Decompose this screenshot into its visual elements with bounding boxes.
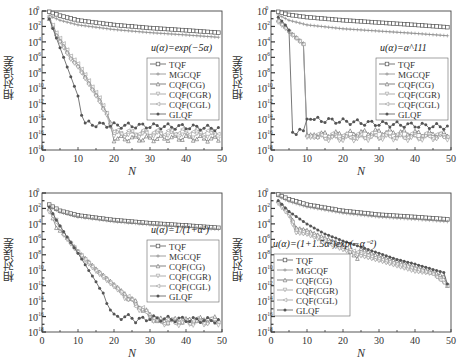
- svg-text:-12: -12: [266, 280, 274, 286]
- svg-text:10: 10: [302, 153, 312, 164]
- svg-text:-2: -2: [37, 20, 42, 26]
- svg-text:u(α)=1/(1+α²): u(α)=1/(1+α²): [151, 224, 210, 236]
- svg-text:CQF(CG): CQF(CG): [398, 80, 434, 90]
- svg-text:-6: -6: [37, 233, 42, 239]
- svg-text:-6: -6: [266, 233, 271, 239]
- svg-text:-6: -6: [266, 51, 271, 57]
- svg-text:20: 20: [109, 153, 119, 164]
- series-tqf: [47, 10, 220, 34]
- svg-text:-10: -10: [37, 82, 45, 88]
- svg-text:-8: -8: [266, 249, 271, 255]
- svg-text:10: 10: [73, 335, 83, 346]
- svg-text:CQF(CGL): CQF(CGL): [398, 100, 440, 110]
- svg-text:CQF(CGL): CQF(CGL): [169, 282, 211, 292]
- svg-text:-8: -8: [37, 249, 42, 255]
- svg-text:-12: -12: [37, 280, 45, 286]
- svg-text:GLQF: GLQF: [169, 110, 193, 120]
- svg-text:MGCQF: MGCQF: [296, 266, 328, 276]
- svg-text:30: 30: [145, 335, 155, 346]
- svg-text:CQF(CGL): CQF(CGL): [296, 296, 338, 306]
- svg-text:-12: -12: [37, 98, 45, 104]
- svg-text:40: 40: [410, 153, 420, 164]
- x-axis-label: N: [357, 164, 365, 179]
- svg-text:50: 50: [446, 335, 456, 346]
- svg-text:-2: -2: [266, 202, 271, 208]
- svg-text:CQF(CG): CQF(CG): [296, 276, 332, 286]
- svg-text:CQF(CGR): CQF(CGR): [169, 90, 211, 100]
- x-axis-label: N: [128, 346, 136, 361]
- svg-text:GLQF: GLQF: [296, 306, 320, 316]
- chart-top-left: 10010-210-410-610-810-1010-1210-1410-161…: [0, 0, 229, 182]
- svg-text:u(α)=exp(−5α): u(α)=exp(−5α): [151, 42, 213, 54]
- svg-text:-4: -4: [37, 36, 42, 42]
- svg-text:GLQF: GLQF: [169, 292, 193, 302]
- svg-text:-16: -16: [266, 129, 274, 135]
- svg-text:-10: -10: [266, 264, 274, 270]
- svg-text:-12: -12: [266, 98, 274, 104]
- svg-text:50: 50: [446, 153, 456, 164]
- svg-text:u(α)=α^111: u(α)=α^111: [380, 42, 427, 54]
- svg-text:-10: -10: [37, 264, 45, 270]
- svg-text:MGCQF: MGCQF: [169, 252, 201, 262]
- svg-text:-16: -16: [37, 129, 45, 135]
- svg-text:0: 0: [40, 335, 45, 346]
- svg-text:50: 50: [217, 153, 227, 164]
- svg-text:-16: -16: [266, 311, 274, 317]
- svg-text:-14: -14: [266, 113, 274, 119]
- svg-text:-18: -18: [266, 326, 274, 332]
- svg-text:-18: -18: [37, 144, 45, 150]
- svg-text:-14: -14: [37, 113, 45, 119]
- x-axis-label: N: [128, 164, 136, 179]
- svg-text:10: 10: [73, 153, 83, 164]
- svg-text:-6: -6: [37, 51, 42, 57]
- svg-text:-10: -10: [266, 82, 274, 88]
- chart-top-right: 10010-210-410-610-810-1010-1210-1410-161…: [229, 0, 458, 182]
- x-axis-label: N: [357, 346, 365, 361]
- svg-text:u(α)=(1+1.5α²)exp(−α⁻²): u(α)=(1+1.5α²)exp(−α⁻²): [273, 238, 377, 250]
- svg-text:0: 0: [269, 153, 274, 164]
- svg-text:-14: -14: [266, 295, 274, 301]
- svg-text:30: 30: [374, 335, 384, 346]
- series-tqf: [276, 10, 449, 29]
- svg-text:MGCQF: MGCQF: [169, 70, 201, 80]
- svg-text:-8: -8: [37, 67, 42, 73]
- svg-text:50: 50: [217, 335, 227, 346]
- svg-text:CQF(CGL): CQF(CGL): [169, 100, 211, 110]
- svg-text:10: 10: [302, 335, 312, 346]
- svg-text:CQF(CGR): CQF(CGR): [398, 90, 440, 100]
- svg-text:TQF: TQF: [169, 60, 186, 70]
- chart-bottom-right: 10010-210-410-610-810-1010-1210-1410-161…: [229, 182, 458, 364]
- svg-text:20: 20: [338, 335, 348, 346]
- panel-bottom-right: 相对误差 10010-210-410-610-810-1010-1210-141…: [229, 182, 458, 364]
- svg-text:CQF(CG): CQF(CG): [169, 262, 205, 272]
- svg-text:0: 0: [269, 335, 274, 346]
- svg-text:CQF(CGR): CQF(CGR): [169, 272, 211, 282]
- svg-text:MGCQF: MGCQF: [398, 70, 430, 80]
- svg-text:20: 20: [109, 335, 119, 346]
- panel-bottom-left: 相对误差 10010-210-410-610-810-1010-1210-141…: [0, 182, 229, 364]
- svg-text:0: 0: [266, 5, 269, 11]
- svg-text:-8: -8: [266, 67, 271, 73]
- svg-text:20: 20: [338, 153, 348, 164]
- svg-text:-4: -4: [266, 218, 271, 224]
- panel-top-right: 相对误差 10010-210-410-610-810-1010-1210-141…: [229, 0, 458, 182]
- chart-bottom-left: 10010-210-410-610-810-1010-1210-1410-161…: [0, 182, 229, 364]
- svg-text:GLQF: GLQF: [398, 110, 422, 120]
- svg-text:-16: -16: [37, 311, 45, 317]
- svg-text:TQF: TQF: [169, 242, 186, 252]
- svg-text:0: 0: [266, 187, 269, 193]
- svg-text:40: 40: [410, 335, 420, 346]
- svg-text:-4: -4: [37, 218, 42, 224]
- svg-text:-18: -18: [266, 144, 274, 150]
- svg-text:30: 30: [145, 153, 155, 164]
- svg-text:-14: -14: [37, 295, 45, 301]
- svg-text:40: 40: [181, 335, 191, 346]
- svg-text:0: 0: [37, 5, 40, 11]
- svg-text:TQF: TQF: [398, 60, 415, 70]
- panel-top-left: 相对误差 10010-210-410-610-810-1010-1210-141…: [0, 0, 229, 182]
- svg-text:-18: -18: [37, 326, 45, 332]
- svg-text:-2: -2: [37, 202, 42, 208]
- svg-text:CQF(CG): CQF(CG): [169, 80, 205, 90]
- svg-text:-2: -2: [266, 20, 271, 26]
- svg-text:0: 0: [37, 187, 40, 193]
